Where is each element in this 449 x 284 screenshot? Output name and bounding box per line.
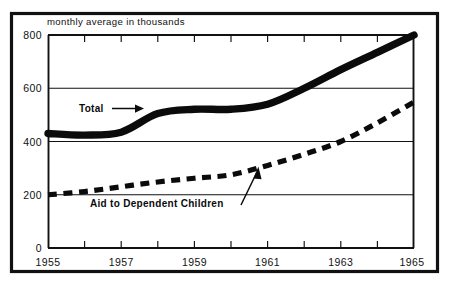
- x-tick-label-1961: 1961: [255, 256, 280, 268]
- line-chart: monthly average in thousands: [0, 0, 449, 284]
- y-tick-label-400: 400: [23, 136, 42, 148]
- annotation-label-adc: Aid to Dependent Children: [90, 198, 224, 209]
- x-tick-label-1963: 1963: [328, 256, 353, 268]
- x-tick-label-1959: 1959: [182, 256, 207, 268]
- y-tick-label-200: 200: [23, 189, 42, 201]
- x-tick-label-1955: 1955: [36, 256, 61, 268]
- y-tick-label-800: 800: [23, 29, 42, 41]
- chart-title: monthly average in thousands: [47, 16, 185, 27]
- chart-container: monthly average in thousands: [0, 0, 449, 284]
- x-tick-label-1957: 1957: [109, 256, 134, 268]
- y-tick-label-0: 0: [36, 242, 42, 254]
- annotation-label-total: Total: [79, 103, 104, 114]
- y-tick-label-600: 600: [23, 82, 42, 94]
- x-tick-label-1965: 1965: [400, 256, 425, 268]
